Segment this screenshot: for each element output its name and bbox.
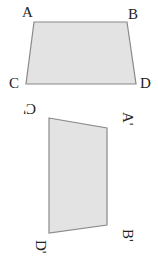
geometry-diagram: A B C D C' A' B' D' <box>0 0 158 259</box>
label-a-prime: A' <box>120 112 136 126</box>
label-b: B <box>128 6 138 22</box>
original-trapezoid: A B C D <box>9 4 151 91</box>
label-b-prime: B' <box>120 229 136 242</box>
label-a: A <box>22 4 33 20</box>
label-c: C <box>9 75 19 91</box>
label-d-prime: D' <box>33 240 49 254</box>
trapezoid-rotated <box>49 118 107 233</box>
rotated-trapezoid: C' A' B' D' <box>23 101 136 254</box>
trapezoid-abcd <box>26 22 136 84</box>
label-d: D <box>140 75 151 91</box>
label-c-prime: C' <box>23 101 36 117</box>
